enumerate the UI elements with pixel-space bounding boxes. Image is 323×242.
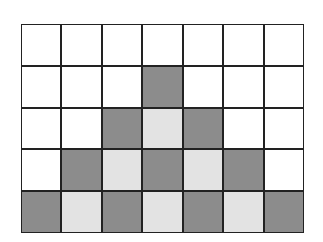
- grid-cell-r3-c6-white: [265, 150, 303, 190]
- grid-cell-r2-c2-dark: [103, 109, 141, 149]
- grid-cell-r3-c5-dark: [224, 150, 262, 190]
- grid-cell-r0-c6-white: [265, 25, 303, 65]
- grid-cell-r0-c2-white: [103, 25, 141, 65]
- grid-cell-r1-c0-white: [22, 67, 60, 107]
- grid-cell-r0-c5-white: [224, 25, 262, 65]
- grid-cell-r2-c3-light: [143, 109, 181, 149]
- grid-cell-r1-c1-white: [62, 67, 100, 107]
- grid-cell-r2-c6-white: [265, 109, 303, 149]
- grid-cell-r4-c3-light: [143, 192, 181, 232]
- grid-cell-r3-c3-dark: [143, 150, 181, 190]
- grid-cell-r1-c4-white: [184, 67, 222, 107]
- grid-cell-r4-c4-dark: [184, 192, 222, 232]
- grid-cell-r0-c4-white: [184, 25, 222, 65]
- grid-cell-r0-c3-white: [143, 25, 181, 65]
- grid-cell-r1-c2-white: [103, 67, 141, 107]
- grid-cell-r4-c2-dark: [103, 192, 141, 232]
- grid-cell-r0-c0-white: [22, 25, 60, 65]
- grid-cell-r4-c6-dark: [265, 192, 303, 232]
- grid-cell-r2-c5-white: [224, 109, 262, 149]
- grid-cell-r2-c0-white: [22, 109, 60, 149]
- grid-cell-r2-c4-dark: [184, 109, 222, 149]
- pattern-grid: [21, 24, 304, 233]
- grid-cell-r4-c0-dark: [22, 192, 60, 232]
- grid-cell-r3-c1-dark: [62, 150, 100, 190]
- grid-cell-r3-c4-light: [184, 150, 222, 190]
- grid-cell-r4-c1-light: [62, 192, 100, 232]
- grid-cell-r1-c6-white: [265, 67, 303, 107]
- grid-cell-r0-c1-white: [62, 25, 100, 65]
- grid-cell-r2-c1-white: [62, 109, 100, 149]
- grid-cell-r3-c0-white: [22, 150, 60, 190]
- grid-cell-r1-c5-white: [224, 67, 262, 107]
- grid-cell-r3-c2-light: [103, 150, 141, 190]
- grid-cell-r1-c3-dark: [143, 67, 181, 107]
- grid-cell-r4-c5-light: [224, 192, 262, 232]
